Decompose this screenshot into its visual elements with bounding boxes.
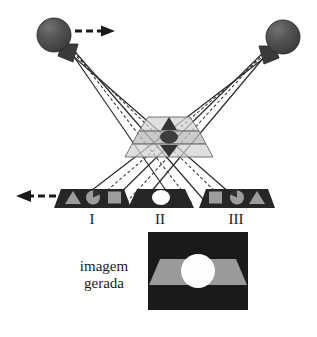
optical-ray-diagram: I II III imagem gerada [0, 0, 317, 337]
detector-III-shape-circle-wedge [230, 190, 244, 204]
detector-I[interactable] [54, 189, 131, 208]
center-shape-circle [160, 131, 178, 144]
right-source [259, 20, 300, 64]
detector-I-shape-square [108, 192, 121, 204]
top-dashed-arrow [75, 26, 115, 37]
detector-I-shape-circle-wedge [86, 190, 100, 204]
caption-line-2: gerada [84, 275, 124, 291]
detector-I-label: I [90, 211, 95, 227]
detector-III-shape-square [209, 192, 222, 204]
detector-III-label: III [229, 211, 244, 227]
left-source-sphere [37, 18, 71, 52]
detector-II-shape-circle [152, 190, 170, 205]
detector-III[interactable] [199, 189, 275, 208]
generated-image-panel [148, 232, 248, 310]
top-arrow-head [101, 26, 115, 37]
right-source-sphere [266, 20, 300, 54]
figure-root: I II III imagem gerada [0, 0, 317, 337]
caption-line-1: imagem [80, 258, 129, 274]
left-arrow-head [16, 190, 31, 202]
detector-II-label: II [155, 211, 165, 227]
left-source [37, 18, 78, 62]
detector-II[interactable] [128, 189, 194, 208]
generated-panel-circle [181, 254, 215, 288]
left-dashed-arrow [16, 190, 56, 202]
